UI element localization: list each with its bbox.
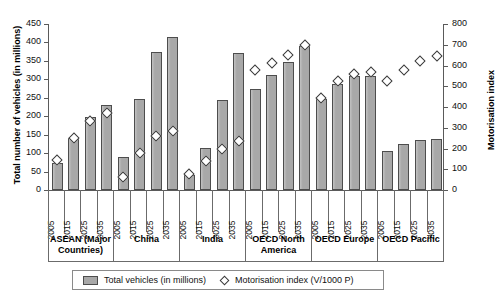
motorisation-marker bbox=[415, 56, 426, 67]
bar bbox=[398, 144, 409, 190]
bar bbox=[299, 46, 310, 190]
motorisation-marker bbox=[382, 75, 393, 86]
bar bbox=[167, 37, 178, 190]
y-axis-right-tick-mark bbox=[444, 128, 448, 129]
legend-item-motorisation-index: Motorisation index (V/1000 P) bbox=[220, 275, 354, 285]
y-axis-right-tick-mark bbox=[444, 66, 448, 67]
x-axis-group-cell: India bbox=[180, 232, 246, 262]
y-axis-right-tick-label: 600 bbox=[452, 61, 492, 70]
x-axis-group-label: ASEAN (Major Countries) bbox=[48, 234, 113, 256]
x-axis-year-cell: 2035 bbox=[428, 190, 445, 232]
y-axis-right-tick-mark bbox=[444, 86, 448, 87]
y-axis-left-tick-label: 50 bbox=[1, 167, 41, 176]
motorisation-marker bbox=[398, 65, 409, 76]
bar bbox=[415, 140, 426, 190]
legend-label-total-vehicles: Total vehicles (in millions) bbox=[104, 275, 206, 285]
bar bbox=[283, 62, 294, 190]
x-axis-group-labels: ASEAN (Major Countries)ChinaIndiaOECD No… bbox=[48, 232, 444, 262]
y-axis-right-tick-label: 200 bbox=[452, 144, 492, 153]
x-axis-group-label: India bbox=[202, 234, 223, 245]
y-axis-left-tick-label: 350 bbox=[1, 56, 41, 65]
x-axis-group-label: OECD Pacific bbox=[382, 234, 440, 245]
legend-label-motorisation-index: Motorisation index (V/1000 P) bbox=[235, 275, 354, 285]
x-axis-group-label: OECD Europe bbox=[315, 234, 375, 245]
motorisation-marker bbox=[250, 65, 261, 76]
chart-legend: Total vehicles (in millions) Motorisatio… bbox=[72, 270, 384, 290]
x-axis-group-label: OECD North America bbox=[246, 234, 311, 256]
y-axis-right-tick-label: 0 bbox=[452, 185, 492, 194]
bar bbox=[68, 138, 79, 190]
bar bbox=[266, 75, 277, 190]
legend-item-total-vehicles: Total vehicles (in millions) bbox=[83, 275, 206, 285]
y-axis-left-tick-label: 0 bbox=[1, 185, 41, 194]
y-axis-left-tick-label: 100 bbox=[1, 148, 41, 157]
y-axis-left-title: Total number of vehicles (in millions) bbox=[12, 25, 22, 185]
bar bbox=[233, 53, 244, 190]
bar bbox=[316, 99, 327, 190]
x-axis-group-cell: ASEAN (Major Countries) bbox=[48, 232, 114, 262]
x-axis-group-cell: OECD Europe bbox=[312, 232, 378, 262]
bar bbox=[382, 151, 393, 190]
motorisation-marker bbox=[283, 49, 294, 60]
y-axis-right-tick-label: 800 bbox=[452, 19, 492, 28]
y-axis-right-tick-label: 100 bbox=[452, 164, 492, 173]
bar bbox=[85, 117, 96, 190]
x-axis-group-cell: OECD Pacific bbox=[378, 232, 444, 262]
motorisation-marker bbox=[266, 57, 277, 68]
y-axis-left-tick-label: 250 bbox=[1, 93, 41, 102]
y-axis-right-tick-label: 300 bbox=[452, 123, 492, 132]
bar-swatch-icon bbox=[83, 276, 98, 285]
x-axis-group-cell: China bbox=[114, 232, 180, 262]
y-axis-right-tick-mark bbox=[444, 45, 448, 46]
diamond-marker-icon bbox=[220, 275, 230, 285]
bar bbox=[365, 76, 376, 190]
bar bbox=[52, 163, 63, 190]
x-axis-year-labels: 2005201520252035200520152025203520052015… bbox=[48, 190, 444, 232]
y-axis-left-tick-label: 400 bbox=[1, 37, 41, 46]
y-axis-right-tick-mark bbox=[444, 190, 448, 191]
y-axis-right-tick-mark bbox=[444, 24, 448, 25]
bar bbox=[431, 139, 442, 190]
y-axis-right-tick-mark bbox=[444, 149, 448, 150]
x-axis-group-label: China bbox=[134, 234, 159, 245]
y-axis-right-tick-mark bbox=[444, 169, 448, 170]
bar bbox=[250, 89, 261, 190]
bar bbox=[151, 52, 162, 190]
bar bbox=[349, 76, 360, 190]
bar bbox=[332, 84, 343, 190]
bar bbox=[134, 99, 145, 190]
y-axis-left-tick-label: 200 bbox=[1, 111, 41, 120]
y-axis-right-tick-mark bbox=[444, 107, 448, 108]
y-axis-left-tick-label: 300 bbox=[1, 74, 41, 83]
motorisation-marker bbox=[431, 50, 442, 61]
y-axis-left-tick-label: 450 bbox=[1, 19, 41, 28]
y-axis-right-tick-label: 500 bbox=[452, 81, 492, 90]
plot-area bbox=[48, 24, 444, 190]
y-axis-left-tick-label: 150 bbox=[1, 130, 41, 139]
x-axis-group-cell: OECD North America bbox=[246, 232, 312, 262]
y-axis-right-tick-label: 400 bbox=[452, 102, 492, 111]
y-axis-right-tick-label: 700 bbox=[452, 40, 492, 49]
